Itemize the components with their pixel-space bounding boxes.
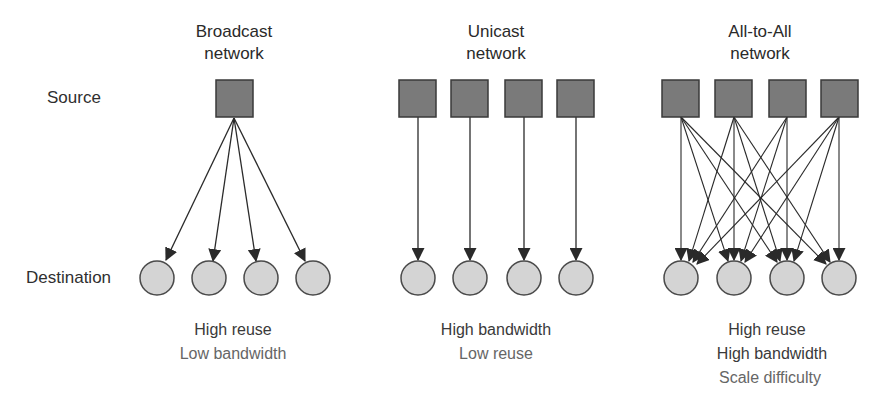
all-to-all-caption-3: Scale difficulty — [693, 366, 847, 390]
destination-node — [244, 261, 278, 295]
destination-node — [664, 261, 698, 295]
broadcast-captions: High reuse Low bandwidth — [158, 318, 308, 366]
unicast-caption-1: High bandwidth — [421, 318, 571, 342]
unicast-captions: High bandwidth Low reuse — [421, 318, 571, 366]
source-node — [399, 80, 436, 117]
destination-node — [296, 261, 330, 295]
source-node — [451, 80, 488, 117]
all-to-all-caption-1: High reuse — [687, 318, 847, 342]
broadcast-network — [140, 80, 330, 295]
broadcast-caption-2: Low bandwidth — [158, 342, 308, 366]
source-node — [662, 80, 699, 117]
edge — [681, 117, 826, 264]
edge — [794, 117, 839, 261]
unicast-edges — [418, 117, 576, 260]
destination-node — [401, 261, 435, 295]
edge — [697, 117, 839, 264]
edge — [745, 117, 839, 262]
destination-node — [507, 261, 541, 295]
source-node — [557, 80, 594, 117]
source-node — [769, 80, 806, 117]
destination-node — [559, 261, 593, 295]
destination-node — [770, 261, 804, 295]
all-to-all-caption-2: High bandwidth — [697, 342, 847, 366]
source-node — [216, 80, 253, 117]
destination-node — [140, 261, 174, 295]
all-to-all-network — [662, 80, 858, 295]
unicast-network — [399, 80, 594, 295]
destination-node — [453, 261, 487, 295]
all-to-all-edges — [681, 117, 839, 264]
destination-node — [192, 261, 226, 295]
all-to-all-captions: High reuse High bandwidth Scale difficul… — [697, 318, 847, 390]
broadcast-caption-1: High reuse — [158, 318, 308, 342]
destination-node — [717, 261, 751, 295]
unicast-caption-2: Low reuse — [421, 342, 571, 366]
broadcast-edges — [166, 118, 305, 261]
source-node — [715, 80, 752, 117]
source-node — [505, 80, 542, 117]
destination-node — [822, 261, 856, 295]
edge — [734, 117, 830, 262]
source-node — [821, 80, 858, 117]
